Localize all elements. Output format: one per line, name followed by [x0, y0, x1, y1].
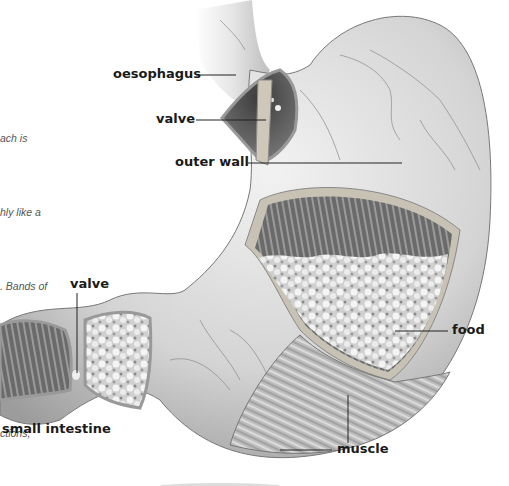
- label-muscle: muscle: [337, 441, 389, 456]
- label-outer-wall: outer wall: [175, 154, 249, 169]
- label-valve-bottom: valve: [70, 276, 109, 291]
- label-valve-top: valve: [156, 111, 195, 126]
- intestine-cutaway-left: [0, 321, 71, 400]
- label-small-intestine: small intestine: [2, 421, 111, 436]
- label-food: food: [452, 322, 485, 337]
- label-oesophagus: oesophagus: [113, 66, 201, 81]
- stomach-illustration: [0, 0, 509, 486]
- intestine-cutaway-right: [85, 312, 151, 408]
